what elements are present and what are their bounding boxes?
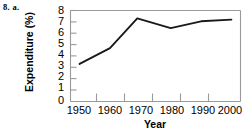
y-axis-ticks [71,11,77,91]
x-axis-ticks [97,94,209,102]
plot-area [0,0,246,133]
expenditure-line-series [80,18,232,64]
chart-figure: 8. a. Expenditure (%) Year 8 7 6 5 4 3 2… [0,0,246,133]
